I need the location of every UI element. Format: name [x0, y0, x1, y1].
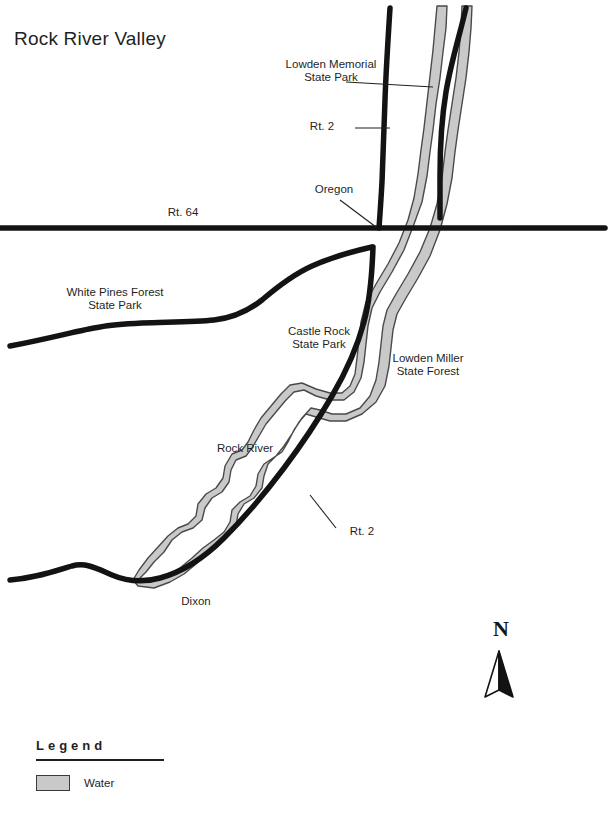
label-oregon: Oregon: [300, 183, 368, 196]
label-rock-river: Rock River: [208, 442, 282, 455]
north-arrow-right-half: [499, 651, 513, 697]
route-2-north-road: [379, 8, 390, 228]
page-title: Rock River Valley: [14, 28, 166, 50]
legend-divider: [36, 759, 164, 761]
north-letter: N: [478, 618, 524, 640]
legend-label-water: Water: [84, 777, 114, 789]
leader-oregon: [340, 200, 376, 227]
rock-river-water: [133, 6, 472, 588]
legend-swatch-water: [36, 775, 70, 791]
label-lowden-miller-state-forest: Lowden Miller State Forest: [381, 352, 475, 378]
label-dixon: Dixon: [172, 595, 220, 608]
compass-rose: N: [478, 618, 524, 640]
label-route-2-south: Rt. 2: [340, 525, 384, 538]
label-white-pines-forest-state-park: White Pines Forest State Park: [53, 286, 177, 312]
north-arrow-graphic: [485, 651, 513, 697]
legend-item-water: Water: [36, 775, 256, 791]
label-castle-rock-state-park: Castle Rock State Park: [277, 325, 361, 351]
label-route-2-north: Rt. 2: [300, 120, 344, 133]
map-page: Rock River Valley Lowden Memorial State …: [0, 0, 614, 817]
legend: Legend Water: [36, 738, 256, 791]
river-polygon: [133, 6, 472, 588]
leader-route-2-south: [310, 495, 336, 528]
label-route-64: Rt. 64: [158, 206, 208, 219]
label-lowden-memorial-state-park: Lowden Memorial State Park: [276, 58, 386, 84]
legend-heading: Legend: [36, 738, 256, 753]
north-arrow-left-half: [485, 651, 499, 697]
